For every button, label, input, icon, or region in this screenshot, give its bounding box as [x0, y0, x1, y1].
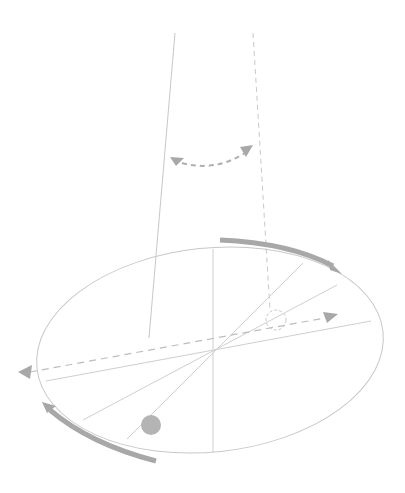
pendulum-string-solid — [149, 33, 175, 338]
rotation-arrowhead-top-icon — [328, 260, 342, 274]
swing-arrowhead-left-icon — [170, 157, 184, 166]
pendulum-diagram: Pendulum swing plane rotating over circu… — [0, 0, 405, 493]
arrowhead-left-icon — [18, 365, 32, 379]
swing-arrowhead-right-icon — [240, 145, 253, 157]
arrowhead-right-icon — [323, 312, 338, 323]
platform-radial-lines — [46, 249, 371, 452]
pendulum-bob-filled — [141, 415, 161, 435]
swing-arc-arrow — [170, 145, 253, 166]
rotation-arrow-top — [220, 240, 342, 274]
pendulum-string-dashed — [253, 33, 270, 310]
pendulum-bob-ghost — [266, 310, 286, 330]
